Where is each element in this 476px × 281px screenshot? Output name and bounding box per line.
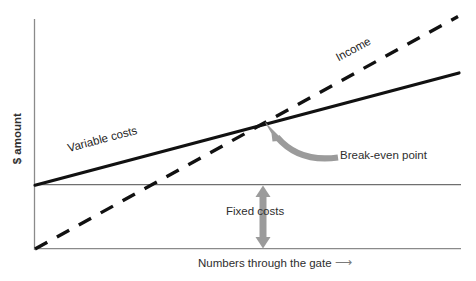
- x-axis-label: Numbers through the gate⟶: [198, 257, 351, 270]
- break-even-chart: $ amount Numbers through the gate⟶ Varia…: [0, 0, 476, 281]
- arrow-right-icon: ⟶: [335, 257, 351, 269]
- y-axis-label: $ amount: [12, 103, 24, 175]
- annotation-label-break-even-point: Break-even point: [340, 150, 427, 162]
- annotation-label-fixed-costs: Fixed costs: [226, 206, 284, 218]
- variable-costs-line: [35, 73, 459, 185]
- x-axis-label-text: Numbers through the gate: [198, 257, 332, 269]
- break-even-arrow: [265, 122, 339, 159]
